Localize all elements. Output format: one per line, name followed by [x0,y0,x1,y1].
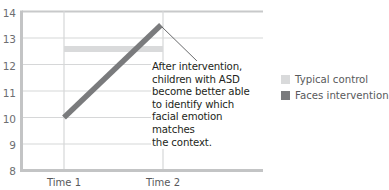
annotation-line: to identify which [152,99,266,112]
series-faces-intervention [64,25,161,118]
annotation-text: After intervention, children with ASD be… [151,61,267,149]
series-typical-control [64,46,163,52]
y-tick-8: 8 [9,165,16,177]
y-tick-14: 14 [3,7,17,19]
y-tick-10: 10 [3,113,16,125]
y-tick-12: 12 [3,60,16,72]
legend-swatch-light-gray-icon [281,75,290,84]
annotation-line: the context. [152,137,266,150]
x-tick-time2: Time 2 [145,177,180,188]
annotation-line: children with ASD [152,74,266,87]
annotation-line: After intervention, [152,61,266,74]
legend-label: Typical control [295,74,368,85]
y-tick-13: 13 [3,33,16,45]
y-tick-labels: 14 13 12 11 10 9 8 [3,7,17,177]
y-tick-11: 11 [3,87,16,99]
legend-swatch-dark-gray-icon [281,91,290,100]
legend-item-faces-intervention: Faces intervention [281,87,389,103]
x-tick-time1: Time 1 [46,177,81,188]
annotation-line: become better able [152,86,266,99]
annotation-line: facial emotion matches [152,111,266,136]
legend-item-typical-control: Typical control [281,71,389,87]
y-tick-9: 9 [9,139,16,151]
annotation-leader-line [162,27,198,62]
legend: Typical control Faces intervention [281,71,389,103]
legend-label: Faces intervention [295,90,389,101]
